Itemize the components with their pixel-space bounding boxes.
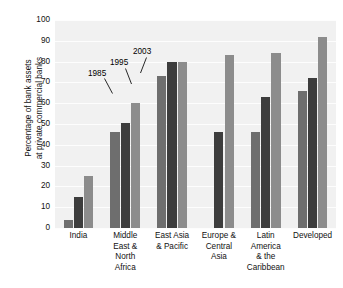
bar: [251, 132, 260, 228]
bar: [271, 53, 280, 228]
x-axis-category-label-line: Africa: [96, 263, 155, 274]
bar: [261, 97, 270, 228]
x-axis-category-label-line: & the: [236, 252, 295, 263]
gridline: [55, 82, 336, 83]
y-axis-tick-label: 100: [24, 16, 50, 24]
y-axis-tick-label: 50: [24, 120, 50, 128]
y-axis-tick-label: 80: [24, 58, 50, 66]
bar: [225, 55, 234, 228]
bar: [157, 76, 166, 228]
gridline: [55, 103, 336, 104]
gridline: [55, 228, 336, 229]
gridline: [55, 20, 336, 21]
bar: [64, 220, 73, 228]
bar-group: [298, 20, 328, 228]
y-axis-tick-label: 10: [24, 203, 50, 211]
gridline: [55, 124, 336, 125]
bar: [121, 123, 130, 228]
x-axis-category-label-line: Caribbean: [236, 263, 295, 274]
plot-area: [55, 20, 336, 228]
y-axis-tick-label: 70: [24, 78, 50, 86]
y-axis-tick-label: 0: [24, 224, 50, 232]
bar-chart: Percentage of bank assets at private com…: [0, 0, 343, 288]
y-axis-tick-label: 40: [24, 141, 50, 149]
bar: [178, 62, 187, 228]
bar: [110, 132, 119, 228]
x-axis-category-labels: IndiaMiddleEast &NorthAfricaEast Asia& P…: [55, 231, 336, 288]
y-axis-tick-label: 90: [24, 37, 50, 45]
annotation-1985: 1985: [88, 70, 106, 78]
bar: [167, 62, 176, 228]
x-axis-category-label: Developed: [283, 231, 342, 242]
y-axis-tick-label: 20: [24, 182, 50, 190]
gridline: [55, 207, 336, 208]
bar-group: [204, 20, 234, 228]
bar: [214, 132, 223, 228]
bar: [131, 103, 140, 228]
bar: [308, 78, 317, 228]
y-axis-tick-labels: 1009080706050403020100: [24, 0, 50, 288]
y-axis-tick-label: 30: [24, 162, 50, 170]
y-axis-tick-label: 60: [24, 99, 50, 107]
x-axis-category-label-line: America: [236, 242, 295, 253]
gridline: [55, 41, 336, 42]
bar-group: [157, 20, 187, 228]
annotation-2003: 2003: [133, 48, 151, 56]
bar-group: [64, 20, 94, 228]
gridline: [55, 62, 336, 63]
bar: [318, 37, 327, 228]
gridline: [55, 166, 336, 167]
bar-group: [251, 20, 281, 228]
x-axis-category-label-line: North: [96, 252, 155, 263]
bar: [74, 197, 83, 228]
annotation-1995: 1995: [110, 59, 128, 67]
gridline: [55, 145, 336, 146]
x-axis-category-label-line: Developed: [283, 231, 342, 242]
gridline: [55, 186, 336, 187]
bar: [84, 176, 93, 228]
bar: [298, 91, 307, 228]
